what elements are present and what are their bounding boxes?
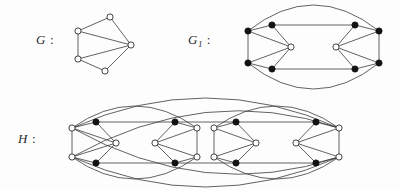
graph-vertex-filled [172, 119, 178, 125]
graph-H [69, 98, 342, 187]
graph-vertex-open [211, 125, 217, 131]
graph-vertex-open [333, 44, 339, 50]
graph-vertex-filled [352, 66, 358, 72]
graph-edge [214, 128, 256, 143]
graph-vertex-open [152, 140, 158, 146]
graph-vertex-open [253, 140, 259, 146]
graph-edge [78, 31, 131, 45]
graph-arc [72, 111, 339, 157]
graph-arc [72, 128, 339, 174]
graph-edge [155, 143, 197, 157]
graph-edge [105, 45, 131, 71]
graph-arc [214, 106, 339, 128]
graph-arc [214, 157, 339, 179]
graph-edge [78, 45, 131, 59]
graph-vertex-filled [313, 160, 319, 166]
graph-diagram-canvas [0, 0, 399, 190]
graph-vertex-filled [269, 22, 275, 28]
graph-edge [78, 59, 105, 71]
graph-vertex-open [128, 42, 134, 48]
graph-vertex-open [194, 154, 200, 160]
graph-vertex-open [69, 154, 75, 160]
graph-vertex-filled [245, 28, 251, 34]
graph-vertex-open [293, 140, 299, 146]
graph-vertex-open [288, 44, 294, 50]
graph-vertex-open [194, 125, 200, 131]
graph-vertex-filled [245, 60, 251, 66]
graph-G1 [245, 5, 382, 89]
graph-arc [72, 98, 339, 128]
graph-vertex-open [107, 14, 113, 20]
graph-vertex-filled [269, 66, 275, 72]
graph-vertex-filled [93, 160, 99, 166]
graph-arc [72, 157, 339, 187]
graph-vertex-filled [352, 22, 358, 28]
graph-vertex-filled [376, 28, 382, 34]
graph-vertex-open [113, 140, 119, 146]
graph-vertex-filled [233, 160, 239, 166]
graph-vertex-open [336, 125, 342, 131]
graph-vertex-filled [172, 160, 178, 166]
graph-edge [110, 17, 131, 45]
graph-vertex-open [69, 125, 75, 131]
graph-vertex-open [75, 56, 81, 62]
graph-G [75, 14, 134, 74]
graph-edge [296, 128, 339, 143]
graph-vertex-filled [313, 119, 319, 125]
figure-page: G: G1: H: [0, 0, 399, 190]
graph-vertex-filled [93, 119, 99, 125]
graph-vertex-open [211, 154, 217, 160]
graph-edge [155, 128, 197, 143]
graph-vertex-open [75, 28, 81, 34]
graph-vertex-filled [233, 119, 239, 125]
graph-edge [214, 143, 256, 157]
graph-arc [248, 63, 379, 89]
graph-arc [248, 5, 379, 31]
graph-vertex-open [336, 154, 342, 160]
graph-vertex-open [102, 68, 108, 74]
graph-vertex-filled [376, 60, 382, 66]
graph-edge [78, 17, 110, 31]
